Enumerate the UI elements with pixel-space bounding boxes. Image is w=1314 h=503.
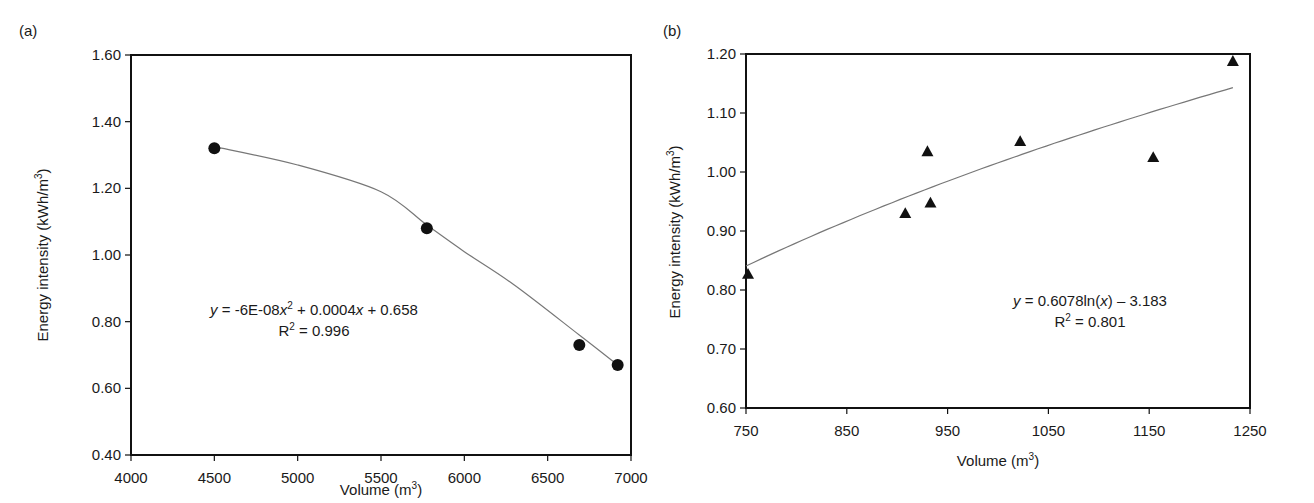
y-tick-label: 0.40 (92, 446, 121, 463)
data-point-triangle-icon (899, 207, 911, 218)
x-tick-label: 6500 (531, 469, 564, 486)
x-tick-label: 1050 (1032, 422, 1065, 439)
y-tick-label: 1.20 (92, 179, 121, 196)
x-tick-label: 950 (935, 422, 960, 439)
y-tick-label: 1.40 (92, 113, 121, 130)
chart-a-xlabel: Volume (m3) (340, 480, 422, 498)
data-point-circle-icon (612, 359, 624, 371)
x-tick-label: 4500 (198, 469, 231, 486)
y-tick-label: 1.10 (707, 104, 736, 121)
chart-b-r2: R2 = 0.801 (1054, 312, 1125, 330)
x-tick-label: 750 (733, 422, 758, 439)
x-tick-label: 5000 (281, 469, 314, 486)
chart-a-ylabel: Energy intensity (kWh/m3) (33, 168, 51, 341)
y-tick-label: 1.20 (707, 45, 736, 62)
y-tick-label: 1.60 (92, 46, 121, 63)
chart-a-equation: y = -6E-08x2 + 0.0004x + 0.658 (209, 300, 418, 318)
chart-b-trendline (746, 88, 1233, 266)
data-point-triangle-icon (1147, 151, 1159, 162)
y-tick-label: 0.80 (92, 313, 121, 330)
x-tick-label: 1250 (1233, 422, 1266, 439)
chart-a-markers (208, 142, 623, 371)
y-tick-label: 1.00 (92, 246, 121, 263)
chart-b-plot-frame (746, 54, 1250, 408)
chart-a-trendline (214, 147, 617, 365)
chart-b-ylabel: Energy intensity (kWh/m3) (665, 145, 683, 318)
chart-a-ticks: 0.400.600.801.001.201.401.60400045005000… (92, 46, 648, 486)
x-tick-label: 4000 (114, 469, 147, 486)
data-point-triangle-icon (1014, 135, 1026, 146)
chart-b-equation: y = 0.6078ln(x) – 3.183 (1012, 292, 1167, 309)
x-tick-label: 6000 (448, 469, 481, 486)
y-tick-label: 1.00 (707, 163, 736, 180)
chart-a: 0.400.600.801.001.201.401.60400045005000… (0, 0, 660, 503)
x-tick-label: 1150 (1133, 422, 1165, 439)
data-point-triangle-icon (1227, 55, 1239, 66)
data-point-circle-icon (573, 339, 585, 351)
data-point-triangle-icon (921, 145, 933, 156)
chart-b-markers (742, 55, 1239, 279)
y-tick-label: 0.60 (92, 379, 121, 396)
chart-b-ticks: 0.600.700.800.901.001.101.20750850950105… (707, 45, 1267, 439)
chart-b-xlabel: Volume (m3) (957, 451, 1039, 469)
y-tick-label: 0.90 (707, 222, 736, 239)
data-point-triangle-icon (742, 268, 754, 279)
data-point-circle-icon (421, 222, 433, 234)
chart-a-r2: R2 = 0.996 (278, 321, 349, 339)
chart-a-plot-frame (131, 55, 631, 455)
x-tick-label: 850 (834, 422, 859, 439)
y-tick-label: 0.70 (707, 340, 736, 357)
y-tick-label: 0.80 (707, 281, 736, 298)
y-tick-label: 0.60 (707, 399, 736, 416)
x-tick-label: 7000 (614, 469, 647, 486)
data-point-triangle-icon (924, 197, 936, 208)
data-point-circle-icon (208, 142, 220, 154)
chart-b: 0.600.700.800.901.001.101.20750850950105… (660, 0, 1314, 503)
